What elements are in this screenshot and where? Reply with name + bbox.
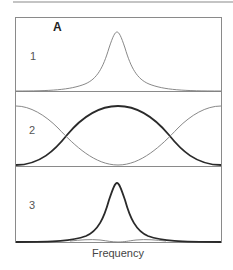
panel2-center-curve	[16, 106, 221, 165]
panel-3	[16, 183, 221, 242]
figure-canvas: A 1 2 3 Frequency	[0, 0, 233, 270]
panel2-label: 2	[29, 124, 35, 136]
x-axis-label: Frequency	[92, 247, 144, 259]
plot-frame	[16, 18, 222, 243]
panel-1	[16, 32, 221, 91]
panel1-label: 1	[30, 50, 36, 62]
panel3-peak-curve	[16, 183, 221, 242]
panel-letter-label: A	[53, 20, 62, 34]
panel3-label: 3	[29, 199, 35, 211]
panel1-peak-curve	[16, 32, 221, 91]
panel-2	[16, 106, 221, 165]
panel3-side-ripple	[70, 240, 166, 242]
